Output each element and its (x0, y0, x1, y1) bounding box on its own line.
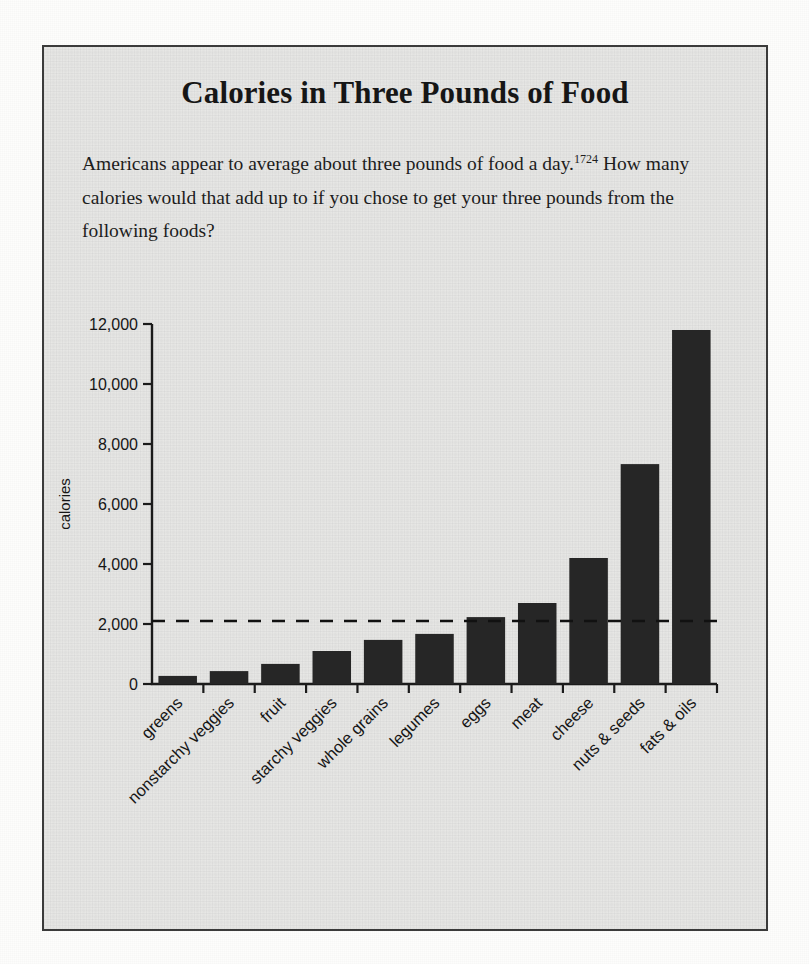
x-axis-category-label: cheese (546, 693, 596, 743)
bar (158, 676, 197, 684)
bar (518, 603, 557, 684)
y-axis-tick-label: 12,000 (89, 316, 138, 333)
y-axis-tick-label: 10,000 (89, 376, 138, 393)
figure-panel: Calories in Three Pounds of Food America… (42, 45, 768, 931)
x-axis-category-label: legumes (386, 693, 443, 750)
bar (415, 634, 454, 684)
y-axis-tick-label: 0 (129, 676, 138, 693)
bar (364, 640, 403, 684)
x-axis-category-label: greens (137, 693, 185, 741)
bar (313, 651, 352, 684)
y-axis-title: calories (56, 478, 73, 530)
bar (261, 664, 300, 684)
x-axis-category-label: starchy veggies (246, 693, 340, 787)
bar-chart: 02,0004,0006,0008,00010,00012,000calorie… (44, 47, 770, 933)
y-axis-tick-label: 2,000 (98, 616, 138, 633)
bar (210, 671, 249, 684)
bar (672, 330, 711, 684)
y-axis-tick-label: 4,000 (98, 556, 138, 573)
x-axis-category-label: fruit (256, 693, 288, 725)
x-axis-category-label: meat (507, 693, 546, 732)
y-axis-tick-label: 6,000 (98, 496, 138, 513)
y-axis-tick-label: 8,000 (98, 436, 138, 453)
bar (621, 464, 660, 684)
x-axis-category-label: fats & oils (636, 693, 699, 756)
x-axis-category-label: eggs (456, 693, 494, 731)
bar (467, 617, 506, 684)
